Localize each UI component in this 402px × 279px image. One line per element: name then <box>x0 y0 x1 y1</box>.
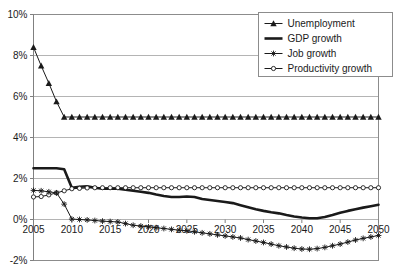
data-point <box>108 186 112 190</box>
data-point <box>215 232 221 238</box>
data-point <box>330 186 334 190</box>
x-tick-label-2035: 2035 <box>252 224 275 235</box>
data-point <box>277 186 281 190</box>
x-tick-label-2015: 2015 <box>99 224 122 235</box>
data-point <box>322 244 328 250</box>
data-point <box>31 195 35 199</box>
data-point <box>284 186 288 190</box>
data-point <box>223 186 227 190</box>
data-point <box>323 186 327 190</box>
data-point <box>245 237 251 243</box>
y-tick-label-4: 4% <box>13 132 28 143</box>
legend-swatch-marker <box>271 66 275 70</box>
chart-legend[interactable]: UnemploymentGDP growthJob growthProducti… <box>259 13 393 77</box>
data-point <box>207 231 213 237</box>
data-point <box>162 186 166 190</box>
data-point <box>61 201 67 207</box>
x-tick-label-2005: 2005 <box>22 224 45 235</box>
y-tick-label--2: -2% <box>10 255 28 266</box>
data-point <box>107 219 113 225</box>
data-point <box>161 226 167 232</box>
data-point <box>376 233 382 239</box>
data-point <box>268 241 274 247</box>
y-tick-label-6: 6% <box>13 91 28 102</box>
data-point <box>307 186 311 190</box>
data-point <box>200 186 204 190</box>
legend-swatch-marker <box>271 51 277 57</box>
y-tick-label-8: 8% <box>13 50 28 61</box>
data-point <box>361 186 365 190</box>
data-point <box>208 186 212 190</box>
data-point <box>230 234 236 240</box>
data-point <box>185 186 189 190</box>
data-point <box>85 186 89 190</box>
data-point <box>261 240 267 246</box>
data-point <box>307 246 313 252</box>
data-point <box>176 227 182 233</box>
data-point <box>169 186 173 190</box>
data-point <box>146 186 150 190</box>
line-chart: 10%8%6%4%2%0%-2% 20052010201520202025203… <box>0 0 402 279</box>
data-point <box>130 222 136 228</box>
data-point <box>138 223 144 229</box>
data-point <box>154 186 158 190</box>
data-point <box>100 218 106 224</box>
data-point <box>84 217 90 223</box>
data-point <box>337 241 343 247</box>
data-point <box>231 186 235 190</box>
data-point <box>184 228 190 234</box>
data-point <box>246 186 250 190</box>
data-point <box>131 186 135 190</box>
data-point <box>276 243 282 249</box>
data-point <box>299 246 305 252</box>
data-point <box>253 238 259 244</box>
data-point <box>360 235 366 241</box>
data-point <box>254 186 258 190</box>
data-point <box>146 224 152 230</box>
data-point <box>292 186 296 190</box>
data-point <box>54 190 60 196</box>
chart-canvas: 10%8%6%4%2%0%-2% 20052010201520202025203… <box>0 0 402 279</box>
data-point <box>139 186 143 190</box>
data-point <box>238 235 244 241</box>
data-point <box>199 230 205 236</box>
legend-label: Unemployment <box>288 18 355 29</box>
data-point <box>261 186 265 190</box>
data-point <box>238 186 242 190</box>
legend-label: GDP growth <box>288 33 342 44</box>
data-point <box>330 243 336 249</box>
data-point <box>346 186 350 190</box>
data-point <box>300 186 304 190</box>
data-point <box>92 218 98 224</box>
data-point <box>153 225 159 231</box>
data-point <box>369 186 373 190</box>
data-point <box>269 186 273 190</box>
data-point <box>115 219 121 225</box>
data-point <box>345 239 351 245</box>
data-point <box>70 187 74 191</box>
data-point <box>284 244 290 250</box>
data-point <box>31 187 37 193</box>
data-point <box>177 186 181 190</box>
data-point <box>116 186 120 190</box>
data-point <box>215 186 219 190</box>
data-point <box>38 188 44 194</box>
data-point <box>39 194 43 198</box>
data-point <box>222 233 228 239</box>
data-point <box>100 186 104 190</box>
y-tick-label-10: 10% <box>7 9 27 20</box>
data-point <box>192 186 196 190</box>
legend-label: Productivity growth <box>288 63 372 74</box>
data-point <box>46 189 52 195</box>
x-tick-label-2040: 2040 <box>291 224 314 235</box>
data-point <box>169 226 175 232</box>
data-point <box>353 186 357 190</box>
data-point <box>314 246 320 252</box>
data-point <box>77 217 83 223</box>
data-point <box>291 245 297 251</box>
data-point <box>192 229 198 235</box>
data-point <box>93 186 97 190</box>
data-point <box>338 186 342 190</box>
data-point <box>62 189 66 193</box>
x-tick-label-2010: 2010 <box>61 224 84 235</box>
